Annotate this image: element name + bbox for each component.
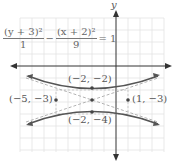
point-label-covertex-right: (1, −3) [132, 94, 167, 104]
point-label-vertex-bottom: (−2, −4) [68, 115, 112, 125]
x-axis-left-arrow-icon [10, 63, 17, 69]
y-axis-label: y [111, 0, 117, 10]
point-label-covertex-left: (−5, −3) [9, 94, 53, 104]
y-axis-down-arrow-icon [113, 154, 119, 161]
equation: (y + 3)² 1 − (x + 2)² 9 = 1 [3, 26, 118, 51]
y-axis-up-arrow-icon [113, 10, 119, 17]
point-label-vertex-top: (−2, −2) [68, 74, 112, 84]
x-axis-right-arrow-icon [165, 63, 172, 69]
